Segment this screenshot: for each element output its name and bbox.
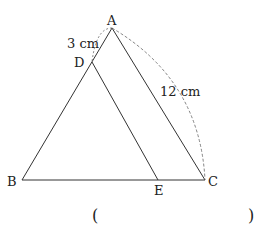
segment-ac <box>112 28 205 180</box>
measure-ad: 3 cm <box>67 36 99 51</box>
label-b: B <box>7 174 17 189</box>
measure-ac: 12 cm <box>160 84 200 99</box>
label-e: E <box>154 183 164 198</box>
segment-de <box>92 62 158 180</box>
triangle-diagram: A B C D E 3 cm 12 cm ( ) <box>0 0 257 232</box>
label-d: D <box>74 55 84 70</box>
answer-paren-close: ) <box>248 206 254 225</box>
answer-paren-open: ( <box>92 206 98 225</box>
label-c: C <box>208 174 218 189</box>
label-a: A <box>106 13 117 28</box>
